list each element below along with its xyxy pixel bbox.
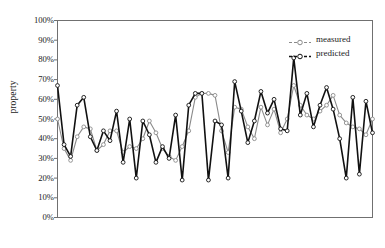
chart-legend: measuredpredicted <box>288 33 350 59</box>
data-series-predicted <box>56 56 375 182</box>
legend-marker-icon <box>288 48 312 59</box>
data-series-group <box>56 56 375 182</box>
legend-item-measured[interactable]: measured <box>288 33 350 45</box>
chart-figure: property 0%10%20%30%40%50%60%70%80%90%10… <box>0 0 385 248</box>
legend-label: measured <box>316 35 350 44</box>
legend-item-predicted[interactable]: predicted <box>288 47 350 59</box>
legend-label: predicted <box>316 49 349 58</box>
legend-marker-icon <box>288 34 312 45</box>
